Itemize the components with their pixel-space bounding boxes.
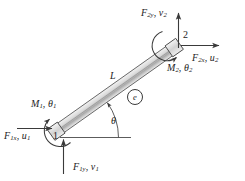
node2-force-y-label: F2y, v2	[141, 8, 167, 19]
beam-length-label: L	[110, 71, 116, 81]
node1-force-x-label: F1x, u1	[4, 131, 30, 142]
node2-moment-label: M2, θ2	[167, 63, 192, 74]
beam-element-figure: F2y, v2 2 F2x, u2 M2, θ2 L e M1, θ1 θ F1…	[0, 0, 245, 181]
element-label-text: e	[133, 93, 137, 102]
element-label-circle: e	[127, 89, 143, 105]
beam-element-body	[55, 40, 182, 134]
beam-centerline	[58, 45, 178, 130]
node2-force-x-label: F2x, u2	[192, 53, 218, 64]
node1-moment-label: M1, θ1	[31, 99, 56, 110]
node2-number-label: 2	[183, 30, 188, 40]
figure-canvas	[0, 0, 245, 181]
angle-theta-label: θ	[111, 116, 116, 126]
node1-force-y-label: F1y, v1	[73, 162, 99, 173]
node1-number-label: 1	[53, 131, 58, 141]
